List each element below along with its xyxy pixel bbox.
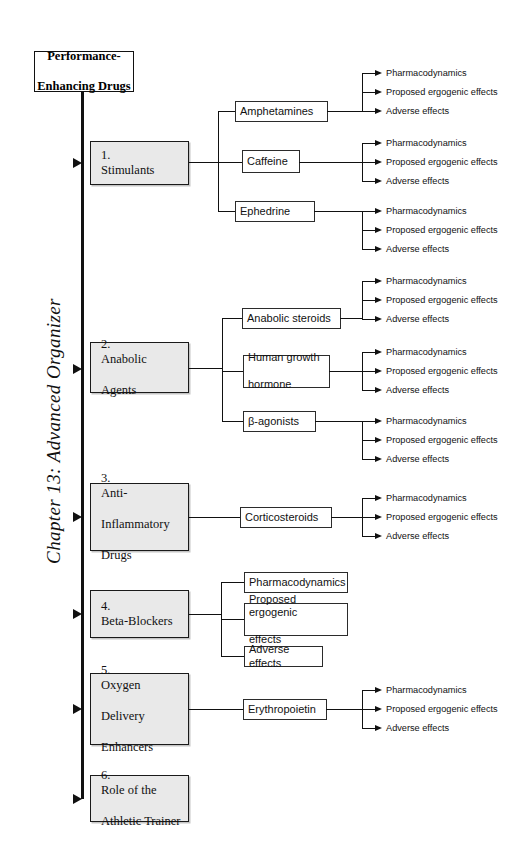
category-5-label: 5.OxygenDeliveryEnhancers [101,663,182,756]
trunk-arrow-5 [73,704,82,714]
leaf-2a-1: Pharmacodynamics [386,276,467,287]
connector-2b-out [329,371,363,372]
leaf-arrow-2c-1 [375,418,382,424]
category-1-text: Stimulants [101,163,182,179]
sub-box-erythropoietin[interactable]: Erythropoietin [243,699,327,720]
sub-box-beta-agonists-label: β-agonists [248,415,311,429]
sub-box-anabolic-steroids-label: Anabolic steroids [247,312,336,326]
connector-2a [222,318,243,319]
leaf-2c-3: Adverse effects [386,454,449,465]
sub-box-bb-adverse[interactable]: Adverse effects [244,646,323,667]
leaf-1b-2: Proposed ergogenic effects [386,157,498,168]
advanced-organizer-diagram: Chapter 13: Advanced Organizer Performan… [0,0,526,862]
leaf-stem-2b-2 [362,371,376,372]
leaf-stem-3-3 [362,536,376,537]
leaf-stem-1a-1 [362,73,376,74]
category-4-number: 4. [101,599,114,615]
sub-box-anabolic-steroids[interactable]: Anabolic steroids [242,308,341,329]
sub-box-bb-adverse-label: Adverse effects [249,643,318,670]
leaf-stem-1a-2 [362,92,376,93]
leaf-3-1: Pharmacodynamics [386,493,467,504]
connector-1b [218,162,243,163]
leaf-arrow-2a-1 [375,278,382,284]
connector-1a-out [327,111,363,112]
sub-box-beta-agonists[interactable]: β-agonists [243,411,316,432]
connector-3 [189,517,241,518]
sub-box-ephedrine-label: Ephedrine [240,205,310,219]
leaf-arrow-5-1 [375,687,382,693]
trunk-arrow-4 [73,609,82,619]
sub-box-bb-pharmacodynamics-label: Pharmacodynamics [249,576,343,590]
leaf-3-3: Adverse effects [386,531,449,542]
leaf-stem-5-2 [362,709,376,710]
connector-4-out [189,614,222,615]
connector-5 [189,709,244,710]
category-5-text: OxygenDeliveryEnhancers [101,678,182,756]
sub-box-human-growth-hormone[interactable]: Human growthhormone [243,355,330,388]
leaf-stem-1c-2 [362,230,376,231]
leaf-arrow-3-1 [375,495,382,501]
sub-box-amphetamines[interactable]: Amphetamines [235,101,328,122]
leaf-stem-2c-2 [362,440,376,441]
root-label: Performance- Enhancing Drugs [35,49,133,94]
leaf-arrow-1b-1 [375,140,382,146]
leaf-5-2: Proposed ergogenic effects [386,704,498,715]
sub-box-corticosteroids[interactable]: Corticosteroids [240,507,332,528]
category-2-label: 2.AnabolicAgents [101,337,182,399]
category-1-number: 1. [101,148,114,164]
sub-box-bb-proposed[interactable]: Proposed ergogeniceffects [244,603,348,636]
leaf-arrow-3-2 [375,514,382,520]
root-label-line1: Performance- [35,49,133,64]
connector-2-out [189,368,223,369]
sub-box-caffeine-label: Caffeine [247,155,295,169]
leaf-arrow-2c-3 [375,456,382,462]
category-4-label: 4.Beta-Blockers [101,599,182,630]
connector-2b [222,371,244,372]
leaf-stem-2b-3 [362,390,376,391]
category-box-6[interactable]: 6.Role of theAthletic Trainer [90,775,189,822]
leaf-stem-1a-3 [362,111,376,112]
category-4-text: Beta-Blockers [101,614,182,630]
leaf-arrow-1a-2 [375,89,382,95]
leaf-1c-2: Proposed ergogenic effects [386,225,498,236]
leaf-2b-2: Proposed ergogenic effects [386,366,498,377]
leaf-2c-1: Pharmacodynamics [386,416,467,427]
leaf-1a-2: Proposed ergogenic effects [386,87,498,98]
trunk-arrow-3 [73,512,82,522]
sub-box-erythropoietin-label: Erythropoietin [248,703,322,717]
leaf-1b-1: Pharmacodynamics [386,138,467,149]
trunk-line [81,92,84,799]
category-2-number: 2. [101,337,114,353]
leaf-arrow-1c-1 [375,208,382,214]
category-box-3[interactable]: 3.Anti-InflammatoryDrugs [90,483,189,551]
leaf-stem-2a-1 [362,281,376,282]
category-box-1[interactable]: 1.Stimulants [90,141,189,185]
category-3-text: Anti-InflammatoryDrugs [101,486,182,564]
leaf-2b-3: Adverse effects [386,385,449,396]
bracket-2 [222,318,223,422]
sub-box-bb-pharmacodynamics[interactable]: Pharmacodynamics [244,572,348,593]
leaf-stem-1c-3 [362,249,376,250]
connector-4c [221,656,245,657]
leaf-stem-3-1 [362,498,376,499]
leaf-arrow-2a-3 [375,316,382,322]
leaf-1c-3: Adverse effects [386,244,449,255]
sub-box-caffeine[interactable]: Caffeine [242,150,300,173]
leaf-arrow-3-3 [375,533,382,539]
leaf-2a-2: Proposed ergogenic effects [386,295,498,306]
trunk-arrow-2 [73,364,82,374]
leaf-arrow-1a-1 [375,70,382,76]
category-box-4[interactable]: 4.Beta-Blockers [90,590,189,638]
leaf-stem-2c-3 [362,459,376,460]
connector-1-out [189,162,219,163]
sub-box-ephedrine[interactable]: Ephedrine [235,201,315,222]
leaf-arrow-2c-2 [375,437,382,443]
sub-box-bb-proposed-label: Proposed ergogeniceffects [249,593,343,647]
category-box-5[interactable]: 5.OxygenDeliveryEnhancers [90,673,189,745]
connector-5-out [326,709,363,710]
leaf-stem-3-2 [362,517,376,518]
leaf-arrow-1c-3 [375,246,382,252]
category-box-2[interactable]: 2.AnabolicAgents [90,342,189,393]
sub-box-corticosteroids-label: Corticosteroids [245,511,327,525]
chapter-title: Chapter 13: Advanced Organizer [43,281,65,581]
